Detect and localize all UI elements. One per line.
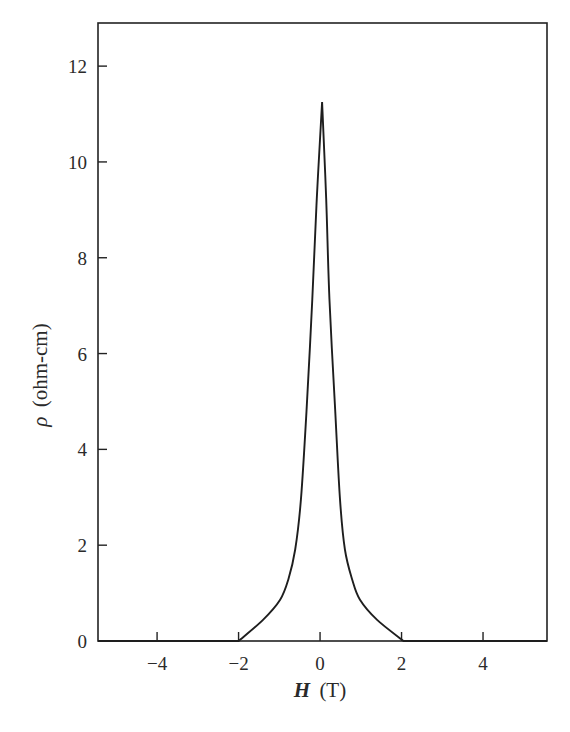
chart: −4−2024 024681012 H (T) ρ (ohm-cm) <box>0 0 570 732</box>
y-tick-label: 2 <box>78 535 88 556</box>
y-tick-label: 12 <box>68 56 87 77</box>
resistivity-curve <box>98 102 547 641</box>
y-tick-label: 10 <box>68 152 87 173</box>
y-axis-ticks: 024681012 <box>68 56 107 652</box>
y-axis-symbol: ρ <box>28 417 52 428</box>
y-axis-label: ρ (ohm-cm) <box>28 323 52 427</box>
y-tick-label: 4 <box>78 439 88 460</box>
x-axis-label: H (T) <box>293 678 346 702</box>
y-tick-label: 6 <box>78 344 88 365</box>
y-axis-unit: (ohm-cm) <box>28 323 52 407</box>
x-tick-label: −4 <box>147 653 168 674</box>
y-tick-label: 0 <box>78 631 88 652</box>
series-layer <box>98 102 547 641</box>
y-tick-label: 8 <box>78 248 88 269</box>
x-axis-ticks: −4−2024 <box>147 632 488 674</box>
x-tick-label: 0 <box>315 653 325 674</box>
x-tick-label: 4 <box>478 653 488 674</box>
x-tick-label: 2 <box>397 653 407 674</box>
x-axis-symbol: H <box>293 678 311 702</box>
chart-svg: −4−2024 024681012 H (T) ρ (ohm-cm) <box>0 0 570 732</box>
x-tick-label: −2 <box>228 653 248 674</box>
x-axis-unit: (T) <box>319 678 346 702</box>
